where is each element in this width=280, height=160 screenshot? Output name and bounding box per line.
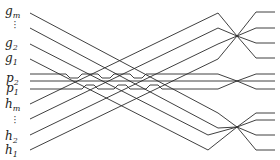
wire-p-top [30, 74, 275, 89]
wire-p-1 [30, 81, 275, 89]
label-g-m: gm [5, 5, 20, 20]
wire-h-dots [30, 28, 275, 119]
vdots-g: ··· [12, 21, 18, 30]
wire-diagram [0, 0, 280, 160]
label-g-1: g1 [5, 52, 18, 67]
label-h-m: hm [5, 98, 20, 113]
wire-h-m [30, 12, 275, 104]
wire-g-m [30, 13, 275, 127]
label-h-1: h1 [5, 144, 18, 159]
label-g-2: g2 [5, 37, 18, 52]
label-p-1: p1 [6, 82, 19, 97]
vdots-h: ··· [12, 116, 18, 125]
wire-g-1 [30, 59, 275, 150]
p-wires [30, 74, 275, 89]
wire-h-2 [30, 36, 275, 135]
